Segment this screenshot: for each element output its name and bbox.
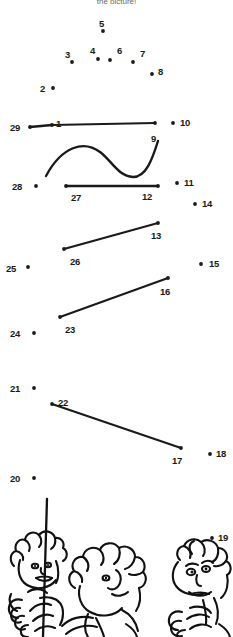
- dot-label-19: 19: [218, 533, 228, 543]
- puzzle-page: the picture!: [0, 0, 233, 637]
- dot-27[interactable]: [64, 184, 68, 188]
- dot-label-23: 23: [65, 325, 75, 335]
- dot-label-14: 14: [202, 199, 212, 209]
- dot-label-29: 29: [10, 123, 20, 133]
- dot-label-24: 24: [10, 329, 20, 339]
- dot-15[interactable]: [199, 262, 203, 266]
- dot-label-5: 5: [99, 19, 104, 29]
- segment-22-17: [52, 404, 181, 448]
- character-left: [9, 531, 67, 637]
- dot-label-16: 16: [160, 287, 170, 297]
- dot-14[interactable]: [193, 202, 197, 206]
- dot-20[interactable]: [32, 476, 36, 480]
- dot-label-22: 22: [58, 398, 68, 408]
- dot-curves-group: [46, 141, 158, 177]
- dot-label-2: 2: [40, 84, 45, 94]
- dot-label-15: 15: [209, 259, 219, 269]
- dot-label-10: 10: [180, 118, 190, 128]
- cartoon-characters-group: [9, 499, 231, 637]
- segment-29-1: [30, 125, 52, 127]
- dot-label-28: 28: [12, 182, 22, 192]
- dot-17[interactable]: [179, 446, 183, 450]
- dot-28[interactable]: [34, 184, 38, 188]
- dot-label-17: 17: [172, 456, 182, 466]
- dot-segments-group: [30, 123, 181, 448]
- dot-7[interactable]: [131, 60, 135, 64]
- wave-curve-to-9: [46, 141, 158, 177]
- dot-4[interactable]: [96, 57, 100, 61]
- dot-label-11: 11: [184, 178, 194, 188]
- dot-29[interactable]: [28, 125, 32, 129]
- dot-label-25: 25: [6, 264, 16, 274]
- dot-label-18: 18: [216, 449, 226, 459]
- dot-24[interactable]: [32, 331, 36, 335]
- dot-10[interactable]: [171, 121, 175, 125]
- dot-label-1: 1: [56, 119, 61, 129]
- dot-2[interactable]: [51, 86, 55, 90]
- dot-label-13: 13: [151, 231, 161, 241]
- dot-label-7: 7: [140, 49, 145, 59]
- character-middle: [62, 543, 146, 637]
- dot-label-20: 20: [10, 474, 20, 484]
- dot-label-12: 12: [142, 192, 152, 202]
- dot-label-27: 27: [71, 193, 81, 203]
- dot-19[interactable]: [210, 536, 214, 540]
- dot-26[interactable]: [62, 247, 66, 251]
- segment-26-13: [64, 223, 158, 249]
- dot-16[interactable]: [166, 276, 170, 280]
- dot-22[interactable]: [50, 402, 54, 406]
- dot-1[interactable]: [50, 123, 54, 127]
- character-right: [169, 539, 231, 637]
- dot-11[interactable]: [175, 181, 179, 185]
- dot-label-3: 3: [65, 50, 70, 60]
- dot-25[interactable]: [26, 265, 30, 269]
- dot-label-21: 21: [10, 384, 20, 394]
- segment-23-16: [60, 278, 168, 317]
- dot-12[interactable]: [156, 184, 160, 188]
- dot-6[interactable]: [108, 58, 112, 62]
- dot-21[interactable]: [32, 386, 36, 390]
- dot-label-26: 26: [70, 257, 80, 267]
- dot-3[interactable]: [70, 60, 74, 64]
- dot-label-9: 9: [151, 134, 156, 144]
- dot-18[interactable]: [208, 452, 212, 456]
- segment-1-9: [52, 123, 155, 125]
- dot-9[interactable]: [153, 121, 157, 125]
- dot-label-6: 6: [117, 46, 122, 56]
- dots-group: [26, 29, 214, 540]
- dot-label-4: 4: [90, 46, 95, 56]
- dot-5[interactable]: [101, 29, 105, 33]
- puzzle-canvas: [0, 0, 233, 637]
- dot-label-8: 8: [158, 67, 163, 77]
- dot-8[interactable]: [150, 72, 154, 76]
- dot-13[interactable]: [156, 221, 160, 225]
- dot-23[interactable]: [58, 315, 62, 319]
